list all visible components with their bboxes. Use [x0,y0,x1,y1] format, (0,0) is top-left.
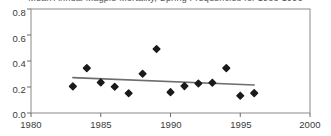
data-point [70,83,77,90]
data-point [181,83,188,90]
chart-figure: Mean Annual Magpie Mortality, Spring Fre… [0,0,331,136]
plot-area [0,0,331,136]
data-point [223,65,230,72]
data-point [84,65,91,72]
data-point [195,80,202,87]
data-point [125,90,132,97]
axis-frame [31,9,310,113]
data-point [237,92,244,99]
y-tick-marks [27,9,31,113]
data-point [97,79,104,86]
data-point [153,46,160,53]
data-point [209,79,216,86]
data-point [139,70,146,77]
x-tick-marks [31,113,310,117]
data-point [111,83,118,90]
data-points [70,46,258,99]
data-point [167,89,174,96]
data-point [251,90,258,97]
plot-frame-rect [31,9,310,113]
